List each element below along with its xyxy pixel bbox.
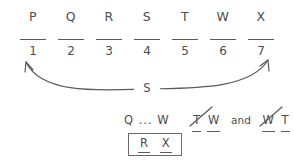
letter-tile: X [242, 8, 280, 26]
pair-letter-second: W [207, 110, 220, 132]
pair-letter-first: W [262, 110, 275, 132]
slot-blank-line [58, 39, 84, 40]
slot-blank-line [210, 39, 236, 40]
letter-tile: S [128, 8, 166, 26]
slot-blank-line [20, 39, 46, 40]
boxed-letter-second: X [160, 135, 172, 153]
letter-tile: W [204, 8, 242, 26]
pair-letter-second: T [281, 110, 290, 132]
chain-constraint: Q ... W [124, 110, 170, 130]
eliminated-pairs-group: T W and W T [189, 110, 292, 132]
letter-pool-row: P Q R S T W X [14, 8, 280, 26]
slot-blank-line [134, 39, 160, 40]
ordering-diagram-canvas: P Q R S T W X 1 2 3 4 5 6 [0, 0, 294, 161]
slot-blank-line [96, 39, 122, 40]
letter-tile: R [90, 8, 128, 26]
eliminated-pair: W T [259, 110, 293, 132]
boxed-conclusion: R X [128, 133, 182, 156]
constraint-arc [0, 52, 294, 108]
arc-label: S [134, 81, 160, 95]
letter-tile: Q [52, 8, 90, 26]
letter-tile: T [166, 8, 204, 26]
slot-blank-line [172, 39, 198, 40]
conjunction-label: and [231, 110, 251, 130]
deductions-row: Q ... W T W and W T [124, 110, 294, 130]
slot-blank-line [248, 39, 274, 40]
eliminated-pair: T W [189, 110, 223, 132]
letter-tile: P [14, 8, 52, 26]
double-headed-curved-arrow-icon [0, 52, 294, 108]
boxed-letter-first: R [138, 135, 150, 153]
pair-letter-first: T [192, 110, 201, 132]
